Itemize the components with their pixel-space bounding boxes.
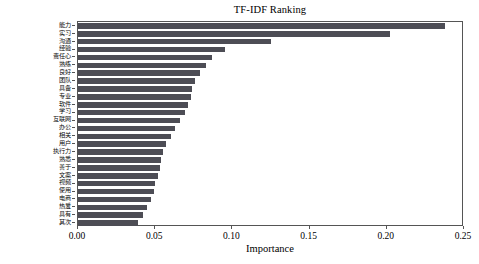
bar <box>78 173 158 179</box>
bar-row <box>78 189 462 195</box>
x-tick-label: 0.10 <box>223 231 240 241</box>
bar-row <box>78 157 462 163</box>
y-tick-mark <box>72 143 75 144</box>
y-tick-label: 能力 <box>59 22 71 28</box>
bar <box>78 110 185 116</box>
y-tick-label: 学习 <box>59 108 71 114</box>
bar-row <box>78 181 462 187</box>
y-tick-mark <box>72 56 75 57</box>
bar <box>78 212 143 218</box>
y-tick-mark <box>72 191 75 192</box>
bar-row <box>78 47 462 53</box>
chart-figure: TF-IDF Ranking 能力实习沟通经验责任心熟练良好团队具备专业软件学习… <box>0 0 479 264</box>
bar-row <box>78 94 462 100</box>
y-tick-label: 具有 <box>59 211 71 217</box>
y-tick-mark <box>72 88 75 89</box>
bar <box>78 197 151 203</box>
bar <box>78 47 225 53</box>
bar <box>78 94 191 100</box>
bar-row <box>78 31 462 37</box>
plot-area <box>77 21 463 226</box>
bar-row <box>78 220 462 226</box>
bar-row <box>78 102 462 108</box>
x-tick-mark <box>309 226 310 229</box>
y-tick-mark <box>72 198 75 199</box>
y-tick-mark <box>72 25 75 26</box>
y-tick-label: 互联网 <box>53 116 71 122</box>
bar-row <box>78 78 462 84</box>
bar <box>78 39 271 45</box>
bar-row <box>78 63 462 69</box>
y-tick-mark <box>72 49 75 50</box>
y-tick-mark <box>72 151 75 152</box>
y-tick-label: 视频 <box>59 179 71 185</box>
bar <box>78 165 160 171</box>
bar-row <box>78 149 462 155</box>
bar-row <box>78 39 462 45</box>
y-tick-label: 实习 <box>59 30 71 36</box>
bar-row <box>78 55 462 61</box>
y-tick-label: 软件 <box>59 101 71 107</box>
y-tick-mark <box>72 104 75 105</box>
y-tick-label: 文案 <box>59 172 71 178</box>
y-tick-mark <box>72 80 75 81</box>
y-tick-label: 责任心 <box>53 53 71 59</box>
bar <box>78 63 206 69</box>
y-tick-mark <box>72 175 75 176</box>
x-tick-mark <box>154 226 155 229</box>
bar-row <box>78 110 462 116</box>
bar-row <box>78 23 462 29</box>
bar-row <box>78 126 462 132</box>
x-tick-mark <box>231 226 232 229</box>
bar <box>78 189 154 195</box>
bar <box>78 118 180 124</box>
bar <box>78 86 192 92</box>
y-tick-mark <box>72 167 75 168</box>
y-tick-label: 善于 <box>59 164 71 170</box>
bar-row <box>78 134 462 140</box>
bar-row <box>78 173 462 179</box>
y-tick-label: 沟通 <box>59 38 71 44</box>
y-tick-mark <box>72 64 75 65</box>
y-tick-mark <box>72 206 75 207</box>
y-tick-label: 电商 <box>59 195 71 201</box>
y-tick-mark <box>72 33 75 34</box>
y-tick-label: 办公 <box>59 124 71 130</box>
x-tick-mark <box>77 226 78 229</box>
bars-layer <box>78 22 462 225</box>
bar-row <box>78 70 462 76</box>
y-tick-label: 具备 <box>59 85 71 91</box>
y-tick-mark <box>72 96 75 97</box>
chart-title: TF-IDF Ranking <box>77 4 463 15</box>
y-tick-label: 执行力 <box>53 148 71 154</box>
x-tick-label: 0.25 <box>455 231 472 241</box>
bar <box>78 55 212 61</box>
bar <box>78 141 166 147</box>
bar-row <box>78 141 462 147</box>
y-tick-label: 相关 <box>59 132 71 138</box>
x-axis-title: Importance <box>77 243 463 254</box>
y-tick-label: 熟练 <box>59 61 71 67</box>
bar-row <box>78 212 462 218</box>
bar <box>78 102 188 108</box>
y-tick-mark <box>72 120 75 121</box>
x-tick-label: 0.00 <box>69 231 86 241</box>
y-tick-label: 其次 <box>59 219 71 225</box>
bar-row <box>78 197 462 203</box>
bar <box>78 149 163 155</box>
x-tick-label: 0.20 <box>377 231 394 241</box>
x-tick-mark <box>386 226 387 229</box>
y-tick-label: 用户 <box>59 140 71 146</box>
bar <box>78 205 147 211</box>
bar <box>78 134 171 140</box>
y-tick-label: 熟悉 <box>59 156 71 162</box>
y-axis-labels: 能力实习沟通经验责任心熟练良好团队具备专业软件学习互联网办公相关用户执行力熟悉善… <box>0 21 75 226</box>
y-tick-mark <box>72 72 75 73</box>
x-tick-mark <box>463 226 464 229</box>
y-tick-label: 经验 <box>59 45 71 51</box>
x-tick-label: 0.05 <box>146 231 163 241</box>
bar-row <box>78 86 462 92</box>
y-tick-mark <box>72 159 75 160</box>
bar <box>78 181 155 187</box>
bar <box>78 78 195 84</box>
